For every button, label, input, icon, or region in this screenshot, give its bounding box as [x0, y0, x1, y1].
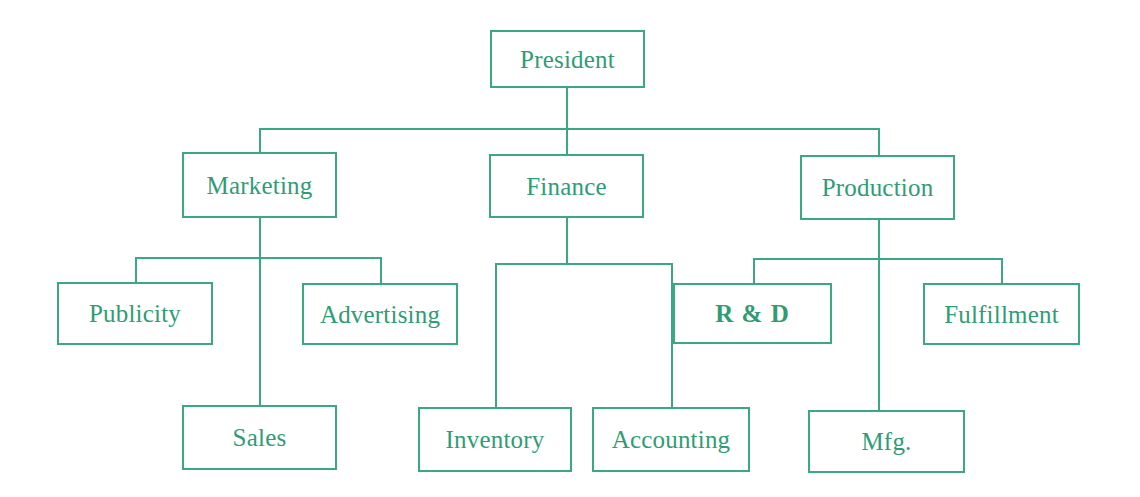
production-stem [878, 220, 880, 410]
node-label-marketing: Marketing [207, 173, 313, 198]
node-fulfillment[interactable]: Fulfillment [923, 283, 1080, 345]
node-label-accounting: Accounting [612, 427, 731, 452]
production-drop [878, 128, 880, 155]
rnd-drop [753, 258, 755, 283]
advertising-drop [380, 257, 382, 283]
finance-stem [566, 218, 568, 263]
org-chart: PresidentMarketingFinanceProductionPubli… [0, 0, 1140, 497]
finance-drop [566, 128, 568, 154]
node-label-finance: Finance [526, 174, 607, 199]
node-label-inventory: Inventory [446, 427, 545, 452]
node-president[interactable]: President [490, 30, 645, 88]
node-mfg[interactable]: Mfg. [808, 410, 965, 473]
node-inventory[interactable]: Inventory [418, 407, 572, 472]
node-label-publicity: Publicity [89, 301, 181, 326]
node-label-production: Production [822, 175, 934, 200]
node-marketing[interactable]: Marketing [182, 152, 337, 218]
president-bus [259, 128, 878, 130]
fulfillment-drop [1001, 258, 1003, 283]
node-publicity[interactable]: Publicity [57, 282, 213, 345]
marketing-drop [259, 128, 261, 152]
production-bus [753, 258, 1003, 260]
node-production[interactable]: Production [800, 155, 955, 220]
node-advertising[interactable]: Advertising [302, 283, 458, 345]
node-label-mfg: Mfg. [861, 429, 911, 454]
node-finance[interactable]: Finance [489, 154, 644, 218]
marketing-stem [259, 218, 261, 405]
publicity-drop [135, 257, 137, 282]
node-accounting[interactable]: Accounting [592, 407, 750, 472]
node-label-advertising: Advertising [320, 302, 440, 327]
node-label-rnd: R & D [715, 301, 789, 326]
node-label-sales: Sales [233, 425, 287, 450]
finance-bus [495, 263, 671, 265]
node-rnd[interactable]: R & D [673, 283, 832, 344]
inventory-drop [495, 263, 497, 407]
node-label-president: President [520, 47, 615, 72]
node-sales[interactable]: Sales [182, 405, 337, 470]
node-label-fulfillment: Fulfillment [944, 302, 1059, 327]
marketing-bus [135, 257, 380, 259]
